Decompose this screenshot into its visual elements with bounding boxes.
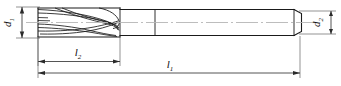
d2-subscript: 2 — [317, 18, 325, 22]
l1-arrowhead-left — [38, 71, 45, 75]
l2-label: l2 — [75, 46, 82, 61]
d1-label: d1 — [1, 18, 16, 27]
dimension-l2-group: l2 — [38, 38, 120, 66]
l2-arrowhead-left — [38, 60, 45, 64]
end-mill-drawing: d1 d2 l2 — [0, 0, 341, 86]
d2-arrowhead-top — [329, 11, 333, 16]
l2-arrowhead-right — [113, 60, 120, 64]
d1-subscript: 1 — [8, 18, 16, 22]
d1-arrowhead-bottom — [20, 32, 24, 39]
l1-subscript: 1 — [170, 65, 174, 73]
technical-drawing-canvas: d1 d2 l2 — [0, 0, 341, 86]
d2-arrowhead-bottom — [329, 29, 333, 34]
l1-arrowhead-right — [293, 71, 300, 75]
d2-label: d2 — [310, 18, 325, 28]
flute-helix-back-edge — [55, 8, 118, 30]
l2-subscript: 2 — [78, 53, 82, 61]
flute-helix-lower-2 — [38, 28, 117, 37]
d1-arrowhead-top — [20, 7, 24, 14]
l1-label: l1 — [167, 58, 174, 73]
flute-helix-upper-2 — [38, 10, 119, 31]
